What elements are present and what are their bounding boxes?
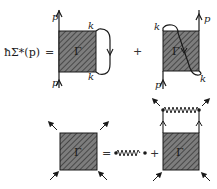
bare-interaction <box>114 150 147 156</box>
vertex-gamma-box <box>163 31 199 71</box>
vertex-label: Γ <box>176 146 184 159</box>
leg-arrow-icon <box>203 174 210 181</box>
wavy-interaction <box>163 107 199 113</box>
term2-diagram: Γ p p k k <box>154 10 211 90</box>
label-k-bottom: k <box>88 71 94 82</box>
plus-sign-1: + <box>133 45 142 58</box>
leg-arrow-icon <box>100 173 107 180</box>
term1-diagram: Γ p p k k <box>52 10 113 88</box>
eq2-lhs-vertex: Γ <box>50 123 107 180</box>
label-k-top: k <box>88 20 94 31</box>
label-p-bottom: p <box>155 79 162 90</box>
leg-arrow-icon <box>100 123 107 130</box>
feynman-diagram-canvas: ħΣ*(p) = Γ p p k k + Γ p p k k Γ <box>0 0 217 189</box>
leg-arrow-icon <box>153 174 160 181</box>
label-k-bottom: k <box>200 73 206 84</box>
vertex-label: Γ <box>74 45 82 58</box>
label-k-top: k <box>154 21 160 32</box>
leg-arrow-icon <box>154 100 160 106</box>
leg-arrow-icon <box>202 100 208 106</box>
equals-sign-1: = <box>45 46 54 59</box>
label-p-bottom: p <box>52 77 59 88</box>
leg-arrow-icon <box>50 173 57 180</box>
vertex-label: Γ <box>172 45 180 58</box>
equals-sign-2: = <box>102 147 111 160</box>
self-energy-label: ħΣ*(p) <box>4 46 40 59</box>
label-p-top: p <box>204 13 211 24</box>
label-p-top: p <box>52 11 59 22</box>
plus-sign-2: + <box>150 147 159 160</box>
leg-arrow-icon <box>50 123 57 130</box>
eq2-rhs-diagram: Γ <box>153 100 210 181</box>
vertex-label: Γ <box>74 146 82 159</box>
